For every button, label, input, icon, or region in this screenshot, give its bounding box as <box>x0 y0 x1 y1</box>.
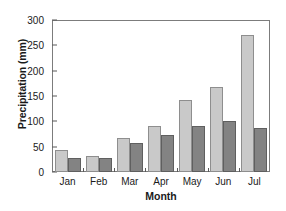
y-tick-label: 150 <box>4 91 44 102</box>
y-tick-label: 250 <box>4 40 44 51</box>
bar-mar-light <box>117 138 130 172</box>
y-axis-title: Precipitation (mm) <box>16 4 28 164</box>
x-tick-mark <box>145 168 146 172</box>
bar-jun-dark <box>223 121 236 172</box>
y-tick-label: 200 <box>4 65 44 76</box>
bar-jun-light <box>210 87 223 172</box>
bar-jan-light <box>55 150 68 172</box>
x-tick-mark <box>239 168 240 172</box>
x-tick-label: Jul <box>234 176 274 187</box>
bar-may-light <box>179 100 192 172</box>
bar-jan-dark <box>68 158 81 172</box>
y-tick-mark <box>52 70 57 71</box>
bar-apr-dark <box>161 135 174 172</box>
y-tick-mark <box>52 96 57 97</box>
y-tick-mark <box>52 45 57 46</box>
x-tick-mark <box>177 168 178 172</box>
y-tick-label: 300 <box>4 15 44 26</box>
x-tick-mark <box>114 168 115 172</box>
x-tick-mark <box>208 168 209 172</box>
bar-may-dark <box>192 126 205 172</box>
y-tick-mark <box>52 121 57 122</box>
y-tick-label: 100 <box>4 116 44 127</box>
x-tick-mark <box>83 168 84 172</box>
bar-jul-light <box>241 35 254 172</box>
y-tick-label: 0 <box>4 167 44 178</box>
y-tick-label: 50 <box>4 141 44 152</box>
x-axis-title: Month <box>52 190 270 202</box>
bar-feb-dark <box>99 158 112 172</box>
y-tick-mark <box>52 146 57 147</box>
bar-apr-light <box>148 126 161 172</box>
bar-feb-light <box>86 156 99 172</box>
bar-mar-dark <box>130 143 143 172</box>
bar-jul-dark <box>254 128 267 172</box>
precipitation-bar-chart: Precipitation (mm) 050100150200250300 Ja… <box>0 0 286 211</box>
y-tick-mark <box>52 20 57 21</box>
